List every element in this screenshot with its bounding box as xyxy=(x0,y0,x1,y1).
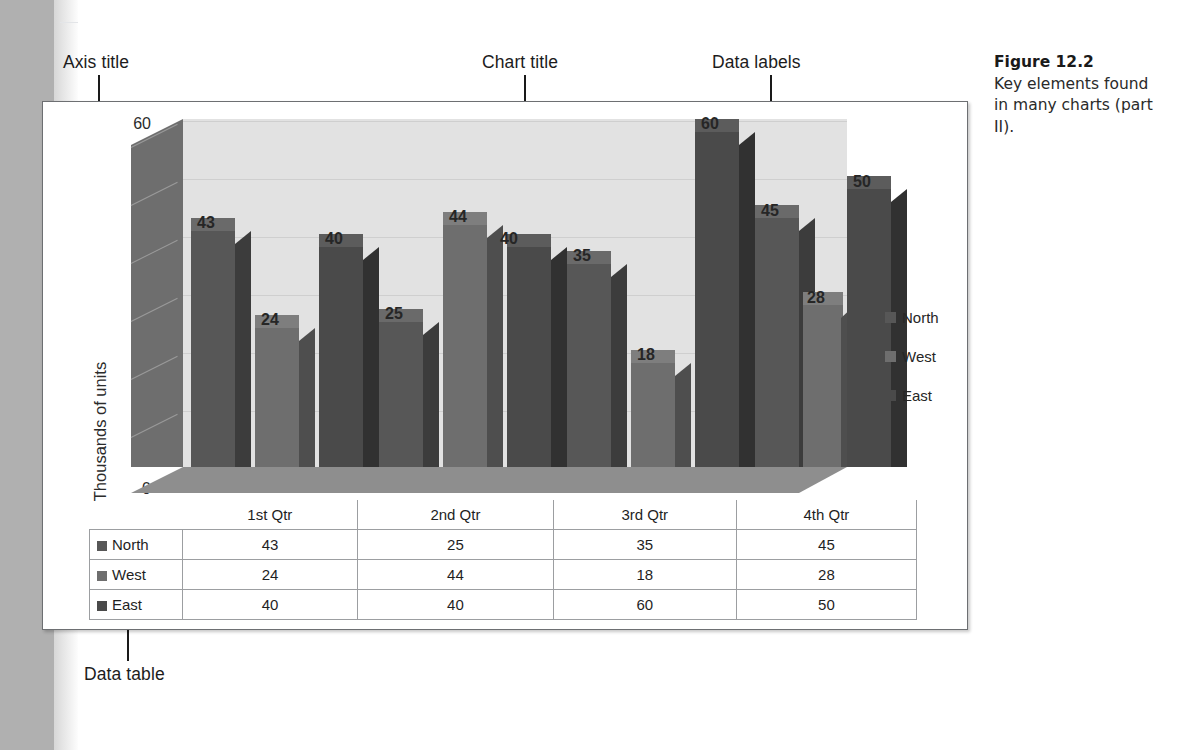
cell-west-q4: 28 xyxy=(736,560,916,590)
gridline-60 xyxy=(183,121,847,122)
row-header-north: North xyxy=(90,530,183,560)
bar-east-q1[interactable] xyxy=(319,234,363,467)
row-label: East xyxy=(112,596,142,613)
bar-west-q4[interactable] xyxy=(803,292,843,467)
cell-west-q2: 44 xyxy=(358,560,554,590)
data-label-north-q1: 43 xyxy=(197,214,215,232)
legend-swatch-icon xyxy=(885,312,896,323)
cell-north-q1: 43 xyxy=(183,530,358,560)
callout-axis-title: Axis title xyxy=(63,52,129,73)
cell-west-q3: 18 xyxy=(553,560,736,590)
cell-north-q4: 45 xyxy=(736,530,916,560)
figure-number: Figure 12.2 xyxy=(994,52,1164,74)
cell-east-q3: 60 xyxy=(553,590,736,620)
row-label: West xyxy=(112,566,146,583)
row-swatch-icon xyxy=(97,571,107,581)
table-row[interactable]: North 43 25 35 45 xyxy=(90,530,917,560)
cell-west-q1: 24 xyxy=(183,560,358,590)
bar-front-face xyxy=(255,328,299,467)
bar-front-face xyxy=(803,305,843,467)
bar-west-q3[interactable] xyxy=(631,350,675,467)
cell-east-q4: 50 xyxy=(736,590,916,620)
callout-data-labels: Data labels xyxy=(712,52,801,73)
data-label-west-q3: 18 xyxy=(637,346,655,364)
data-label-west-q2: 44 xyxy=(449,208,467,226)
legend-swatch-icon xyxy=(885,351,896,362)
bar-front-face xyxy=(755,218,799,467)
row-header-east: East xyxy=(90,590,183,620)
bar-side-face xyxy=(363,247,379,467)
bar-east-q3[interactable] xyxy=(695,119,739,467)
data-label-west-q4: 28 xyxy=(807,289,825,307)
bar-front-face xyxy=(319,247,363,467)
data-table-header: 1st Qtr 2nd Qtr 3rd Qtr 4th Qtr xyxy=(90,500,917,530)
table-row[interactable]: East 40 40 60 50 xyxy=(90,590,917,620)
data-label-west-q1: 24 xyxy=(261,311,279,329)
plot-floor xyxy=(131,467,847,493)
row-label: North xyxy=(112,536,149,553)
bar-side-face xyxy=(299,328,315,467)
bar-north-q1[interactable] xyxy=(191,218,235,467)
row-header-west: West xyxy=(90,560,183,590)
figure-caption-text: Key elements found in many charts (part … xyxy=(994,75,1153,136)
column-header-q2: 2nd Qtr xyxy=(358,500,554,530)
bar-north-q4[interactable] xyxy=(755,205,799,467)
bar-side-face xyxy=(235,231,251,467)
data-label-north-q2: 25 xyxy=(385,305,403,323)
bar-front-face xyxy=(695,132,739,467)
bar-side-face xyxy=(487,225,503,467)
data-label-east-q3: 60 xyxy=(701,115,719,133)
bar-north-q2[interactable] xyxy=(379,309,423,467)
row-swatch-icon xyxy=(97,601,107,611)
bar-side-face xyxy=(739,132,755,467)
bar-west-q1[interactable] xyxy=(255,315,299,467)
bar-north-q3[interactable] xyxy=(567,251,611,467)
figure-caption: Figure 12.2 Key elements found in many c… xyxy=(994,52,1164,138)
bar-front-face xyxy=(631,363,675,467)
y-axis-title-wrap: Thousands of units xyxy=(73,252,93,452)
data-label-east-q4: 50 xyxy=(853,173,871,191)
bar-east-q2[interactable] xyxy=(507,234,551,467)
plot-area: 43 24 40 25 44 xyxy=(131,119,847,493)
bar-front-face xyxy=(379,322,423,467)
data-label-east-q2: 40 xyxy=(500,230,518,248)
column-header-q1: 1st Qtr xyxy=(183,500,358,530)
bar-side-face xyxy=(675,363,691,467)
cell-east-q2: 40 xyxy=(358,590,554,620)
cell-north-q3: 35 xyxy=(553,530,736,560)
legend-item-north[interactable]: North xyxy=(885,309,939,326)
table-row[interactable]: West 24 44 18 28 xyxy=(90,560,917,590)
bar-side-face xyxy=(611,264,627,467)
legend-swatch-icon xyxy=(885,390,896,401)
table-header-row: 1st Qtr 2nd Qtr 3rd Qtr 4th Qtr xyxy=(90,500,917,530)
bar-front-face xyxy=(567,264,611,467)
chart-frame[interactable]: Units Sold Thousands of units 60 50 40 3… xyxy=(42,101,968,630)
bar-side-face xyxy=(551,247,567,467)
bar-front-face xyxy=(191,231,235,467)
chart-data-table[interactable]: 1st Qtr 2nd Qtr 3rd Qtr 4th Qtr North 43… xyxy=(89,500,917,620)
bar-side-face xyxy=(423,322,439,467)
legend-label: East xyxy=(902,387,932,404)
bar-front-face xyxy=(443,225,487,467)
chart-legend: North West East xyxy=(885,309,939,426)
table-corner-cell xyxy=(90,500,183,530)
legend-label: West xyxy=(902,348,936,365)
column-header-q4: 4th Qtr xyxy=(736,500,916,530)
data-label-north-q4: 45 xyxy=(761,202,779,220)
cell-east-q1: 40 xyxy=(183,590,358,620)
bar-west-q2[interactable] xyxy=(443,212,487,467)
data-table-body: North 43 25 35 45 West 24 44 18 28 East xyxy=(90,530,917,620)
bar-front-face xyxy=(507,247,551,467)
legend-item-west[interactable]: West xyxy=(885,348,939,365)
cell-north-q2: 25 xyxy=(358,530,554,560)
data-label-north-q3: 35 xyxy=(573,247,591,265)
callout-data-table: Data table xyxy=(84,664,165,685)
legend-item-east[interactable]: East xyxy=(885,387,939,404)
legend-label: North xyxy=(902,309,939,326)
row-swatch-icon xyxy=(97,541,107,551)
callout-chart-title: Chart title xyxy=(482,52,558,73)
column-header-q3: 3rd Qtr xyxy=(553,500,736,530)
data-label-east-q1: 40 xyxy=(325,230,343,248)
